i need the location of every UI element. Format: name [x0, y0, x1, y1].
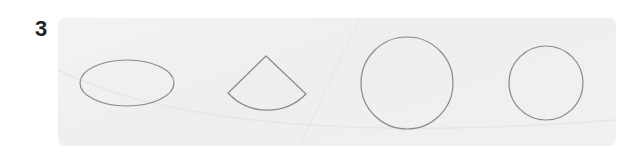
background-swirl	[58, 70, 616, 128]
small-circle-shape	[509, 46, 583, 120]
sector-shape	[228, 56, 306, 110]
large-circle-shape	[361, 37, 453, 129]
shapes-figure	[0, 0, 643, 156]
ellipse-shape	[80, 60, 174, 106]
